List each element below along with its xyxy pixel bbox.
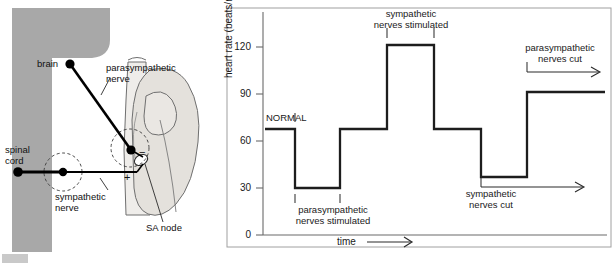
heart-drawing: [124, 58, 199, 216]
heart-rate-chart: heart rate (beats/min) 0 30 60 90 120 NO…: [225, 0, 613, 265]
label-spinal-cord-line2: cord: [5, 155, 23, 166]
annotation-sympathetic-cut-line2: nerves cut: [441, 199, 541, 210]
annotation-sympathetic-stimulated-line2: nerves stimulated: [351, 19, 471, 30]
annotation-normal: NORMAL: [266, 112, 307, 123]
annotation-sympathetic-cut-line1: sympathetic: [441, 188, 541, 199]
label-sympathetic-nerve-line1: sympathetic: [55, 191, 106, 202]
annotation-parasympathetic-stimulated-line2: nerves stimulated: [273, 215, 393, 226]
label-sympathetic-nerve-line2: nerve: [55, 202, 79, 213]
sympathetic-label-leader: [100, 178, 108, 190]
label-sa-node: SA node: [146, 222, 182, 233]
page-corner-mark: [2, 254, 28, 263]
y-tick-label-0: 0: [225, 229, 251, 240]
label-spinal-cord-line1: spinal: [5, 144, 30, 155]
annotation-parasympathetic-cut-line1: parasympathetic: [508, 42, 612, 53]
parasympathetic-cut-arrow: [527, 67, 600, 77]
anatomy-drawing: [0, 0, 225, 265]
y-tick-label-90: 90: [225, 88, 251, 99]
annotation-parasympathetic-cut-line2: nerves cut: [508, 53, 612, 64]
annotation-parasympathetic-stimulated-line1: parasympathetic: [273, 204, 393, 215]
excitatory-sign: +: [124, 172, 130, 183]
label-parasympathetic-nerve-line1: parasympathetic: [106, 62, 176, 73]
chart-y-axis-label: heart rate (beats/min): [223, 0, 234, 78]
annotation-sympathetic-stimulated-line1: sympathetic: [351, 8, 471, 19]
y-tick-label-30: 30: [225, 182, 251, 193]
inhibitory-sign: −: [139, 147, 145, 158]
cns-silhouette: [12, 8, 110, 252]
figure-root: brain spinal cord parasympathetic nerve …: [0, 0, 613, 265]
label-brain: brain: [37, 58, 58, 69]
time-axis-arrow: [367, 237, 412, 247]
anatomy-panel: brain spinal cord parasympathetic nerve …: [0, 0, 225, 265]
heart-rate-trace: [265, 45, 605, 188]
y-tick-marks: [256, 47, 263, 235]
y-tick-label-120: 120: [225, 41, 251, 52]
label-parasympathetic-nerve-line2: nerve: [106, 73, 130, 84]
chart-x-axis-label: time: [337, 236, 356, 247]
y-tick-label-60: 60: [225, 135, 251, 146]
